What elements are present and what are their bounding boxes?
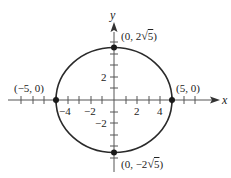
y-axis-label: y [110,9,115,21]
covertex-top-point [111,45,117,51]
vertex-right-point [169,97,175,103]
y-tick-label: 2 [101,72,107,83]
point-label-right: (5, 0) [176,83,200,94]
vertex-left-point [53,97,59,103]
x-tick-label: 2 [134,106,140,117]
point-label-top: (0, 2√5) [121,30,157,42]
covertex-bottom-point [111,150,117,156]
point-label-bottom: (0, −2√5) [121,158,163,170]
x-tick-label: −2 [84,106,96,117]
x-tick-label: −4 [59,106,71,117]
point-label-left: (−5, 0) [14,83,44,94]
x-axis-label: x [222,94,227,106]
y-tick-label: −2 [95,118,107,129]
y-axis-arrow-icon [111,22,118,32]
x-tick-label: 4 [157,106,163,117]
ellipse-diagram: y x −4 −2 2 4 2 −2 (−5, 0) (5, 0) (0, 2√… [0,0,231,178]
sqrt-icon: √ [147,157,154,171]
sqrt-icon: √ [141,29,148,43]
